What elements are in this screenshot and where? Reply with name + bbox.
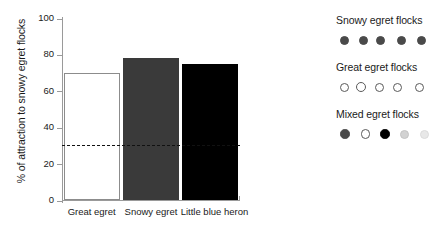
y-axis-tick — [57, 19, 62, 20]
dot-white-outline — [361, 129, 371, 139]
y-axis-tick — [57, 201, 62, 202]
legend-group: Great egret flocks — [336, 61, 443, 94]
dot-light-gray — [400, 130, 409, 139]
y-axis-tick-label: 20 — [43, 158, 54, 169]
y-axis-tick — [57, 164, 62, 165]
dot-white-outline — [356, 82, 366, 92]
x-axis-category-label: Snowy egret — [121, 206, 180, 217]
dot-pale-gray — [420, 130, 429, 139]
legend: Snowy egret flocksGreat egret flocksMixe… — [336, 14, 443, 155]
figure-root: % of attraction to snowy egret flocks 02… — [0, 0, 443, 233]
dot-black — [380, 129, 390, 139]
legend-group-title: Great egret flocks — [336, 61, 443, 73]
dot-white-outline — [415, 83, 424, 92]
y-axis-tick — [57, 91, 62, 92]
y-axis-tick — [57, 128, 62, 129]
dot-white-outline — [393, 83, 402, 92]
dot-dark-gray — [340, 36, 349, 45]
legend-dot-row — [336, 127, 443, 141]
y-axis-tick — [57, 55, 62, 56]
x-axis-right-tick — [239, 196, 240, 201]
y-axis-tick-label: 80 — [43, 48, 54, 59]
x-axis-line — [62, 200, 240, 201]
dot-white-outline — [375, 83, 384, 92]
legend-dot-row — [336, 33, 443, 47]
legend-group: Snowy egret flocks — [336, 14, 443, 47]
bar-snowy-egret — [123, 58, 179, 200]
y-axis-tick-label: 40 — [43, 121, 54, 132]
y-axis-tick-label: 100 — [38, 12, 54, 23]
bar-great-egret — [64, 73, 120, 200]
plot-area: 020406080100 — [62, 19, 240, 201]
dot-dark-gray — [397, 36, 406, 45]
y-axis-tick-label: 0 — [49, 194, 54, 205]
reference-line — [62, 145, 240, 146]
y-axis-tick-label: 60 — [43, 85, 54, 96]
dot-dark-gray — [417, 36, 426, 45]
legend-dot-row — [336, 80, 443, 94]
x-axis-category-label: Great egret — [62, 206, 121, 217]
legend-group-title: Mixed egret flocks — [336, 108, 443, 120]
legend-group: Mixed egret flocks — [336, 108, 443, 141]
legend-group-title: Snowy egret flocks — [336, 14, 443, 26]
x-axis-category-label: Little blue heron — [181, 206, 240, 217]
bar-chart: % of attraction to snowy egret flocks 02… — [0, 0, 252, 233]
dot-white-outline — [340, 83, 349, 92]
dot-dark-gray — [359, 36, 368, 45]
dot-dark-gray — [340, 129, 350, 139]
y-axis-label: % of attraction to snowy egret flocks — [15, 8, 27, 194]
bar-little-blue-heron — [182, 64, 238, 201]
dot-dark-gray — [376, 36, 385, 45]
